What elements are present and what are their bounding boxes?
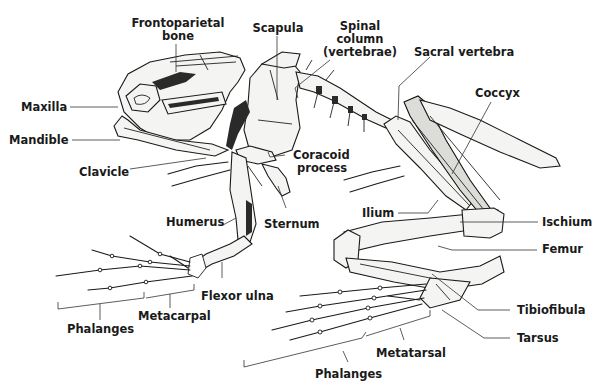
label-coracoid-line1: Coracoid — [293, 148, 350, 162]
label-coracoid-line2: process — [297, 161, 347, 175]
label-ischium: Ischium — [542, 215, 592, 229]
label-humerus: Humerus — [166, 215, 224, 229]
label-ilium: Ilium — [362, 206, 394, 220]
label-phalanges-hind: Phalanges — [315, 367, 382, 381]
label-flexor-ulna: Flexor ulna — [201, 289, 274, 303]
label-frontoparietal-line2: bone — [162, 29, 194, 43]
label-tibiofibula: Tibiofibula — [517, 303, 586, 317]
spinal-column — [296, 60, 392, 132]
skull — [114, 52, 245, 156]
label-mandible: Mandible — [9, 133, 69, 147]
label-clavicle: Clavicle — [79, 165, 129, 179]
frog-skeleton-diagram: Frontoparietal bone Scapula Spinal colum… — [0, 0, 600, 392]
label-frontoparietal-line1: Frontoparietal — [132, 16, 225, 30]
label-spinal-line1: Spinal — [340, 19, 380, 33]
label-maxilla: Maxilla — [21, 100, 67, 114]
label-tarsus: Tarsus — [517, 331, 559, 345]
label-spinal-line3: (vertebrae) — [323, 45, 397, 59]
labels: Frontoparietal bone Scapula Spinal colum… — [9, 16, 592, 381]
label-sacral-vertebra: Sacral vertebra — [414, 45, 514, 59]
forefoot-digits — [56, 236, 192, 290]
hindlimb — [334, 208, 504, 308]
label-femur: Femur — [542, 242, 583, 256]
label-metacarpal: Metacarpal — [138, 309, 211, 323]
label-spinal-line2: column — [336, 32, 383, 46]
label-coccyx: Coccyx — [475, 86, 520, 100]
label-metatarsal: Metatarsal — [376, 346, 446, 360]
label-phalanges-fore: Phalanges — [67, 322, 134, 336]
label-scapula: Scapula — [253, 21, 304, 35]
hindfoot-digits — [272, 284, 426, 340]
pelvis — [384, 96, 560, 214]
label-sternum: Sternum — [264, 217, 320, 231]
